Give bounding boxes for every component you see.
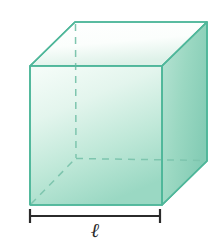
cube-figure: ℓ bbox=[0, 0, 222, 246]
cube-illustration bbox=[0, 0, 222, 246]
edge-length-label: ℓ bbox=[0, 219, 190, 241]
